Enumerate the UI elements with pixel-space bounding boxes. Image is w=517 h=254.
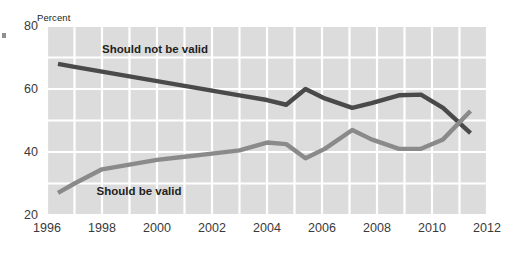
- y-tick-label: 20: [8, 209, 38, 222]
- x-tick-label: 2010: [410, 222, 454, 235]
- series-lines: [58, 64, 471, 193]
- x-tick-label: 2012: [465, 222, 509, 235]
- series-line-should-not-be-valid: [58, 64, 471, 133]
- x-tick-label: 2008: [355, 222, 399, 235]
- x-tick-label: 2006: [300, 222, 344, 235]
- y-tick-label: 40: [8, 146, 38, 159]
- y-tick-label: 60: [8, 83, 38, 96]
- x-tick-label: 2004: [245, 222, 289, 235]
- x-tick-label: 1996: [25, 222, 69, 235]
- plot-area: Should not be validShould be valid: [47, 26, 487, 215]
- x-tick-label: 1998: [80, 222, 124, 235]
- y-axis-title: Percent: [37, 12, 70, 23]
- x-tick-label: 2002: [190, 222, 234, 235]
- x-tick-label: 2000: [135, 222, 179, 235]
- y-tick-label: 80: [8, 20, 38, 33]
- edge-artifact-mark: [2, 33, 6, 38]
- annotation-label-1: Should be valid: [97, 185, 182, 197]
- annotation-label-0: Should not be valid: [102, 43, 208, 55]
- chart-figure: Percent 80604020 19961998200020022004200…: [0, 0, 517, 254]
- plot-svg: Should not be validShould be valid: [47, 26, 487, 215]
